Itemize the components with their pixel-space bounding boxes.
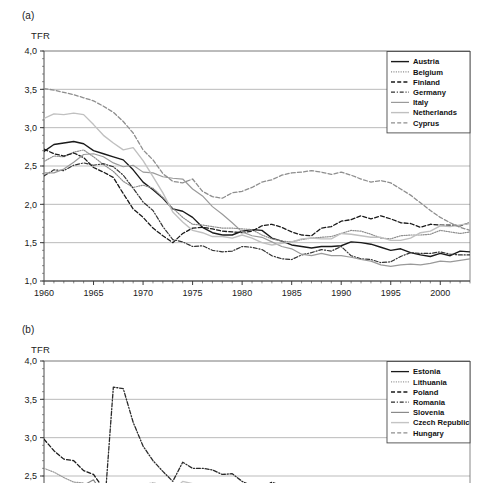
legend-label-czech-republic: Czech Republic: [413, 418, 470, 427]
x-tick-label: 1980: [232, 288, 252, 298]
y-tick-label: 3,5: [24, 85, 37, 95]
series-line-finland: [44, 149, 470, 243]
y-tick-label: 3,0: [24, 123, 37, 133]
y-tick-label: 3,5: [24, 395, 37, 405]
legend-label-netherlands: Netherlands: [413, 108, 457, 117]
x-tick-label: 1985: [282, 288, 302, 298]
legend-label-hungary: Hungary: [413, 429, 445, 438]
y-tick-label: 1,0: [24, 276, 37, 286]
x-tick-label: 1960: [34, 288, 54, 298]
legend-label-finland: Finland: [413, 78, 440, 87]
x-tick-label: 2000: [430, 288, 450, 298]
y-tick-label: 1,5: [24, 238, 37, 248]
legend-label-romania: Romania: [413, 398, 446, 407]
panel-a-svg: 1,01,52,02,53,03,54,01960196519701975198…: [0, 0, 495, 320]
legend-label-belgium: Belgium: [413, 68, 443, 77]
legend-label-cyprus: Cyprus: [413, 119, 439, 128]
y-tick-label: 2,0: [24, 200, 37, 210]
x-tick-label: 1970: [133, 288, 153, 298]
x-tick-label: 1965: [84, 288, 104, 298]
legend-label-italy: Italy: [413, 98, 429, 107]
legend-label-germany: Germany: [413, 88, 447, 97]
panel-b-svg: 2,53,03,54,0EstoniaLithuaniaPolandRomani…: [0, 320, 495, 483]
legend-label-slovenia: Slovenia: [413, 408, 445, 417]
legend-label-estonia: Estonia: [413, 367, 441, 376]
panel-b: (b) TFR 2,53,03,54,0EstoniaLithuaniaPola…: [0, 320, 495, 483]
y-tick-label: 2,5: [24, 161, 37, 171]
panel-a-plot: 1,01,52,02,53,03,54,01960196519701975198…: [0, 0, 495, 320]
legend: EstoniaLithuaniaPolandRomaniaSloveniaCze…: [387, 362, 470, 443]
y-tick-label: 3,0: [24, 433, 37, 443]
legend-label-lithuania: Lithuania: [413, 378, 448, 387]
y-tick-label: 4,0: [24, 46, 37, 56]
y-axis: 1,01,52,02,53,03,54,0: [24, 46, 44, 286]
x-tick-label: 1995: [381, 288, 401, 298]
x-axis: 196019651970197519801985199019952000: [34, 281, 470, 298]
series-line-italy: [44, 154, 470, 267]
series-line-germany: [44, 163, 470, 263]
y-axis: 2,53,03,54,0: [24, 356, 44, 481]
legend-label-poland: Poland: [413, 388, 439, 397]
y-tick-label: 2,5: [24, 471, 37, 481]
legend-label-austria: Austria: [413, 57, 440, 66]
legend: AustriaBelgiumFinlandGermanyItalyNetherl…: [387, 52, 470, 133]
y-tick-label: 4,0: [24, 356, 37, 366]
x-tick-label: 1975: [183, 288, 203, 298]
panel-a: (a) TFR 1,01,52,02,53,03,54,019601965197…: [0, 0, 495, 320]
x-tick-label: 1990: [331, 288, 351, 298]
panel-b-plot: 2,53,03,54,0EstoniaLithuaniaPolandRomani…: [0, 320, 495, 483]
